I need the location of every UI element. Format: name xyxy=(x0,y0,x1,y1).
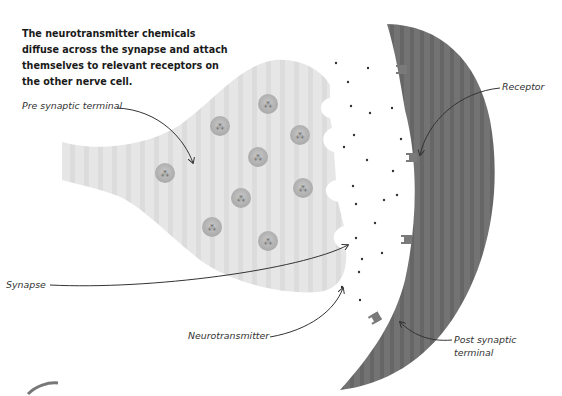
pre-synaptic-terminal xyxy=(62,60,346,293)
description-heading: The neurotransmitter chemicals diffuse a… xyxy=(22,26,232,90)
receptor xyxy=(368,312,382,325)
vesicle: ⁂ xyxy=(210,116,230,136)
vesicle: ⁂ xyxy=(231,188,251,208)
svg-text:⁂: ⁂ xyxy=(296,131,305,141)
heading-line: diffuse across the synapse and attach xyxy=(22,44,228,55)
label-line: Post synaptic xyxy=(454,334,516,345)
vesicle: ⁂ xyxy=(258,94,278,114)
label-line: terminal xyxy=(454,347,493,358)
vesicle: ⁂ xyxy=(248,147,268,167)
vesicle: ⁂ xyxy=(293,178,313,198)
label-pre-synaptic-terminal: Pre synaptic terminal xyxy=(22,99,122,112)
svg-text:⁂: ⁂ xyxy=(208,223,217,233)
synapse-diagram: ⁂ ⁂ ⁂ ⁂ ⁂ ⁂ ⁂ ⁂ ⁂ xyxy=(0,0,562,396)
receptor xyxy=(401,235,412,244)
vesicle: ⁂ xyxy=(202,217,222,237)
vesicle: ⁂ xyxy=(258,231,278,251)
svg-text:⁂: ⁂ xyxy=(299,184,308,194)
svg-text:⁂: ⁂ xyxy=(264,237,273,247)
vesicle: ⁂ xyxy=(290,125,310,145)
heading-line: The neurotransmitter chemicals xyxy=(22,28,196,39)
heading-line: themselves to relevant receptors on xyxy=(22,60,219,71)
label-neurotransmitter: Neurotransmitter xyxy=(188,329,269,342)
svg-text:⁂: ⁂ xyxy=(254,153,263,163)
svg-text:⁂: ⁂ xyxy=(161,169,170,179)
decorative-arc xyxy=(28,383,58,394)
svg-text:⁂: ⁂ xyxy=(216,122,225,132)
heading-line: the other nerve cell. xyxy=(22,76,132,87)
svg-text:⁂: ⁂ xyxy=(237,194,246,204)
vesicle: ⁂ xyxy=(155,163,175,183)
svg-text:⁂: ⁂ xyxy=(264,100,273,110)
neurotransmitter-arrow xyxy=(270,288,343,337)
label-receptor: Receptor xyxy=(502,80,544,93)
receptor xyxy=(396,65,407,74)
receptor xyxy=(406,153,417,162)
label-synapse: Synapse xyxy=(6,278,46,291)
label-post-synaptic-terminal: Post synaptic terminal xyxy=(454,333,554,359)
